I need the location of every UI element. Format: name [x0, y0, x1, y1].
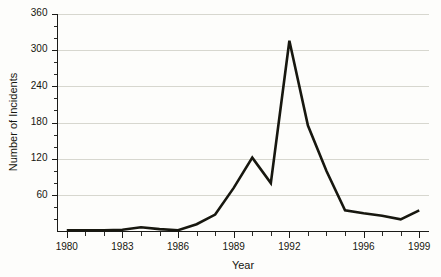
- y-tick-label-240: 240: [31, 80, 48, 91]
- y-tick-label-120: 120: [31, 152, 48, 163]
- x-tick-label-1980: 1980: [56, 241, 79, 252]
- y-axis-tick-labels-group: 60120180240300360: [31, 7, 48, 200]
- y-axis-ticks-group: [52, 15, 58, 220]
- y-tick-label-300: 300: [31, 43, 48, 54]
- x-tick-label-1996: 1996: [352, 241, 375, 252]
- incidents-data-line: [67, 41, 419, 231]
- gridlines-group: [58, 15, 429, 196]
- x-axis-ticks-group: [68, 232, 420, 238]
- y-axis-title: Number of Incidents: [7, 72, 19, 171]
- x-tick-label-1986: 1986: [167, 241, 190, 252]
- y-tick-label-360: 360: [31, 7, 48, 18]
- x-axis-tick-labels-group: 1980198319861989199219961999: [56, 241, 431, 252]
- x-tick-label-1999: 1999: [408, 241, 431, 252]
- x-tick-label-1989: 1989: [223, 241, 246, 252]
- x-axis-title: Year: [232, 259, 255, 271]
- x-tick-label-1992: 1992: [278, 241, 301, 252]
- y-tick-label-180: 180: [31, 116, 48, 127]
- y-tick-label-60: 60: [36, 189, 48, 200]
- line-chart: 60120180240300360 1980198319861989199219…: [0, 0, 441, 277]
- chart-container: 60120180240300360 1980198319861989199219…: [0, 0, 441, 277]
- x-tick-label-1983: 1983: [111, 241, 134, 252]
